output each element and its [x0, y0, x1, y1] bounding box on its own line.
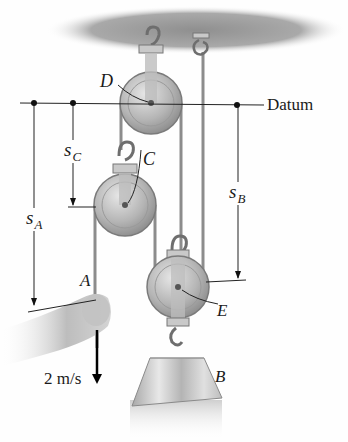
- point-e-reference-line: [206, 280, 246, 282]
- velocity-label: 2 m/s: [44, 370, 81, 387]
- pulley-diagram: D C A E B Datum sA sC sB 2 m/s: [0, 0, 348, 442]
- label-c: C: [143, 150, 155, 168]
- coordinate-sB: sB: [229, 182, 245, 205]
- block-b: [130, 358, 222, 440]
- label-e: E: [217, 302, 227, 319]
- label-d: D: [100, 72, 113, 90]
- label-a: A: [80, 272, 90, 289]
- hand: [0, 294, 111, 366]
- velocity-arrow: [92, 330, 102, 384]
- hook-icon: [171, 328, 182, 345]
- ceiling: [46, 6, 346, 54]
- coordinate-sA: sA: [26, 208, 42, 231]
- label-b: B: [215, 368, 225, 385]
- hook-icon: [119, 142, 133, 160]
- datum-label: Datum: [267, 96, 313, 113]
- coordinate-sC: sC: [64, 140, 81, 163]
